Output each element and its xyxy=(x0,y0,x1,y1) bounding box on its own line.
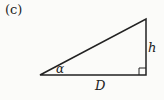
angle-label: α xyxy=(56,62,64,76)
panel-label: (c) xyxy=(5,2,22,17)
right-triangle-diagram xyxy=(0,0,164,100)
base-label: D xyxy=(95,78,105,93)
height-label: h xyxy=(148,40,156,55)
right-angle-marker xyxy=(139,68,146,75)
